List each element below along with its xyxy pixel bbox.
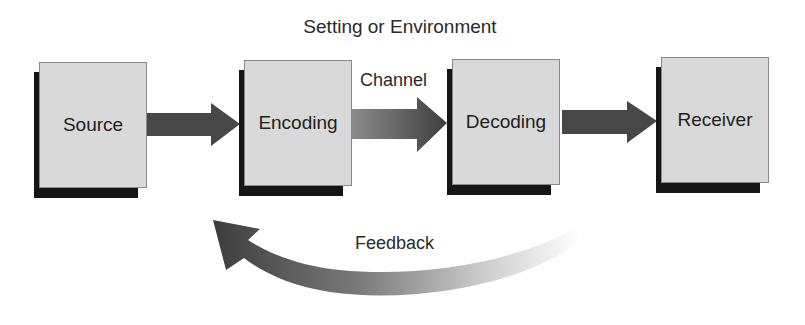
- node-source: Source: [39, 62, 147, 188]
- node-source-label: Source: [39, 62, 147, 188]
- arrow-source-to-encoding: [147, 103, 240, 146]
- arrow-decoding-to-receiver: [562, 101, 657, 143]
- node-decoding-label: Decoding: [452, 59, 560, 185]
- node-receiver: Receiver: [661, 57, 769, 183]
- node-encoding-label: Encoding: [244, 60, 352, 186]
- channel-label: Channel: [360, 70, 427, 91]
- node-receiver-label: Receiver: [661, 57, 769, 183]
- arrow-channel: [351, 97, 447, 152]
- node-decoding: Decoding: [452, 59, 560, 185]
- arrow-feedback: [213, 220, 585, 295]
- feedback-label: Feedback: [355, 233, 434, 254]
- node-encoding: Encoding: [244, 60, 352, 186]
